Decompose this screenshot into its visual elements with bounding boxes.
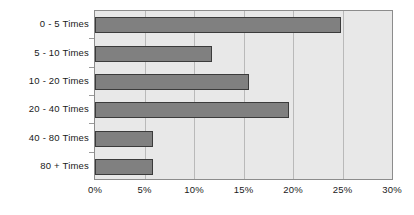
x-tick-label-15pct: 15%: [234, 184, 254, 195]
bar-3: [95, 74, 249, 90]
x-tick-label-20pct: 20%: [283, 184, 303, 195]
category-label-2: 5 - 10 Times: [34, 47, 89, 58]
bar-row: [95, 102, 392, 118]
bar-6: [95, 159, 153, 175]
bar-5: [95, 131, 153, 147]
bar-1: [95, 17, 341, 33]
y-axis-tick: [89, 152, 94, 153]
bar-row: [95, 46, 392, 62]
plot-area: [94, 10, 393, 180]
category-label-6: 80 + Times: [40, 160, 89, 171]
bar-chart: 0 - 5 Times5 - 10 Times10 - 20 Times20 -…: [0, 0, 414, 215]
bar-row: [95, 17, 392, 33]
y-axis-tick: [89, 38, 94, 39]
bar-row: [95, 131, 392, 147]
bars-layer: [95, 11, 392, 179]
x-tick-label-5pct: 5%: [137, 184, 151, 195]
category-label-5: 40 - 80 Times: [29, 132, 89, 143]
y-axis-tick: [89, 123, 94, 124]
x-tick-label-30pct: 30%: [382, 184, 402, 195]
bar-row: [95, 159, 392, 175]
bar-row: [95, 74, 392, 90]
y-axis-tick: [89, 67, 94, 68]
y-axis-tick: [89, 95, 94, 96]
category-label-1: 0 - 5 Times: [40, 18, 89, 29]
category-label-4: 20 - 40 Times: [29, 103, 89, 114]
x-tick-label-10pct: 10%: [184, 184, 204, 195]
category-label-3: 10 - 20 Times: [29, 75, 89, 86]
x-tick-label-0pct: 0%: [88, 184, 102, 195]
x-tick-label-25pct: 25%: [333, 184, 353, 195]
bar-4: [95, 102, 289, 118]
bar-2: [95, 46, 212, 62]
